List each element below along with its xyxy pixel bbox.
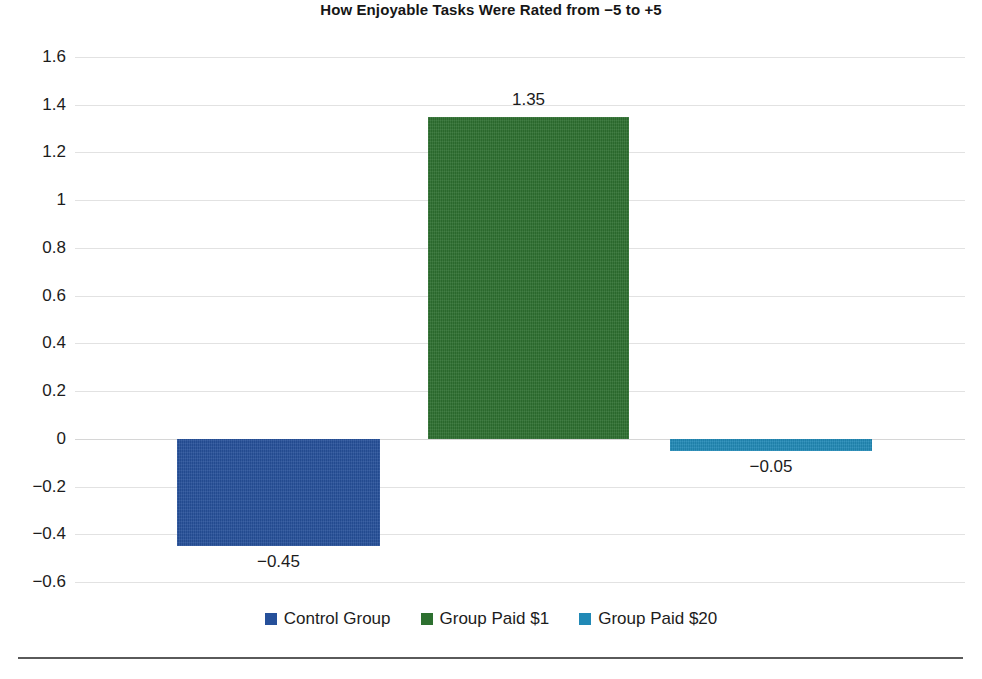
gridline [75, 582, 965, 583]
bar-value-label: 1.35 [428, 90, 629, 110]
y-axis-tick-label: 0.8 [0, 238, 66, 258]
y-axis-tick-label: 1.6 [0, 47, 66, 67]
y-axis-tick-label: 0 [0, 429, 66, 449]
bar[interactable] [670, 439, 872, 451]
y-axis-tick-label: −0.2 [0, 477, 66, 497]
bar-fill [428, 117, 629, 439]
gridline [75, 57, 965, 58]
bar[interactable] [428, 117, 629, 439]
y-axis-tick-label: 1.2 [0, 142, 66, 162]
y-axis-tick-label: −0.6 [0, 572, 66, 592]
legend-label: Group Paid $20 [598, 609, 717, 629]
y-axis-tick-label: 1.4 [0, 95, 66, 115]
legend-label: Control Group [284, 609, 391, 629]
bar[interactable] [177, 439, 380, 546]
chart-legend: Control GroupGroup Paid $1Group Paid $20 [0, 609, 982, 629]
legend-swatch-icon [579, 613, 591, 625]
bar-fill [177, 439, 380, 546]
plot-area: −0.451.35−0.05 [75, 57, 965, 582]
legend-swatch-icon [421, 613, 433, 625]
y-axis-tick-label: 0.2 [0, 381, 66, 401]
legend-item[interactable]: Group Paid $20 [579, 609, 717, 629]
legend-label: Group Paid $1 [440, 609, 550, 629]
bar-fill [670, 439, 872, 451]
legend-item[interactable]: Group Paid $1 [421, 609, 550, 629]
chart-figure: How Enjoyable Tasks Were Rated from −5 t… [0, 0, 982, 679]
bar-value-label: −0.45 [177, 552, 380, 572]
bar-value-label: −0.05 [670, 457, 872, 477]
chart-title: How Enjoyable Tasks Were Rated from −5 t… [0, 1, 982, 18]
y-axis-tick-label: 0.4 [0, 333, 66, 353]
y-axis-tick-label: 1 [0, 190, 66, 210]
y-axis-tick-label: −0.4 [0, 524, 66, 544]
legend-swatch-icon [265, 613, 277, 625]
bottom-divider [18, 657, 963, 659]
legend-item[interactable]: Control Group [265, 609, 391, 629]
y-axis-tick-label: 0.6 [0, 286, 66, 306]
y-axis: 1.61.41.210.80.60.40.20−0.2−0.4−0.6 [0, 57, 66, 582]
